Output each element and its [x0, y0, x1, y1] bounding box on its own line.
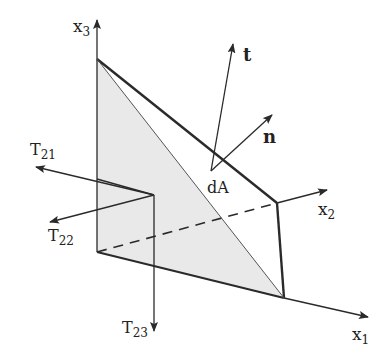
x2-label: x2 — [318, 199, 335, 222]
t21-label: T21 — [30, 140, 56, 162]
t-vector — [211, 44, 233, 171]
edge-x2-to-x1 — [277, 203, 284, 298]
t23-label: T23 — [122, 318, 148, 340]
n-label: n — [263, 126, 276, 147]
t-label: t — [243, 44, 252, 65]
t22-label: T22 — [48, 226, 74, 248]
x1-label: x1 — [352, 324, 369, 347]
x1-axis — [284, 298, 368, 317]
cauchy-tetrahedron-diagram: x3 x2 x1 t n dA T21 T22 T23 — [0, 0, 390, 363]
da-label: dA — [207, 178, 229, 197]
x3-label: x3 — [73, 16, 90, 39]
